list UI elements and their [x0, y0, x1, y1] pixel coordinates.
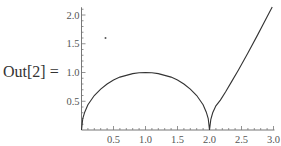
stray-point: [105, 37, 107, 39]
x-tick-label: 2.0: [203, 134, 216, 145]
y-tick-label: 1.0: [66, 67, 79, 78]
y-tick-label: 1.5: [66, 38, 79, 49]
annotation-points: [105, 37, 107, 39]
plot: 0.51.01.52.02.53.00.51.01.52.0: [0, 0, 281, 145]
x-tick-label: 1.5: [171, 134, 184, 145]
tick-labels: 0.51.01.52.02.53.00.51.01.52.0: [66, 10, 280, 146]
x-tick-label: 1.0: [139, 134, 152, 145]
y-tick-label: 2.0: [66, 10, 79, 21]
x-tick-label: 0.5: [107, 134, 120, 145]
x-tick-label: 2.5: [235, 134, 248, 145]
x-tick-label: 3.0: [267, 134, 280, 145]
curve-line: [82, 7, 273, 130]
axes: [82, 7, 275, 130]
y-tick-label: 0.5: [66, 96, 79, 107]
